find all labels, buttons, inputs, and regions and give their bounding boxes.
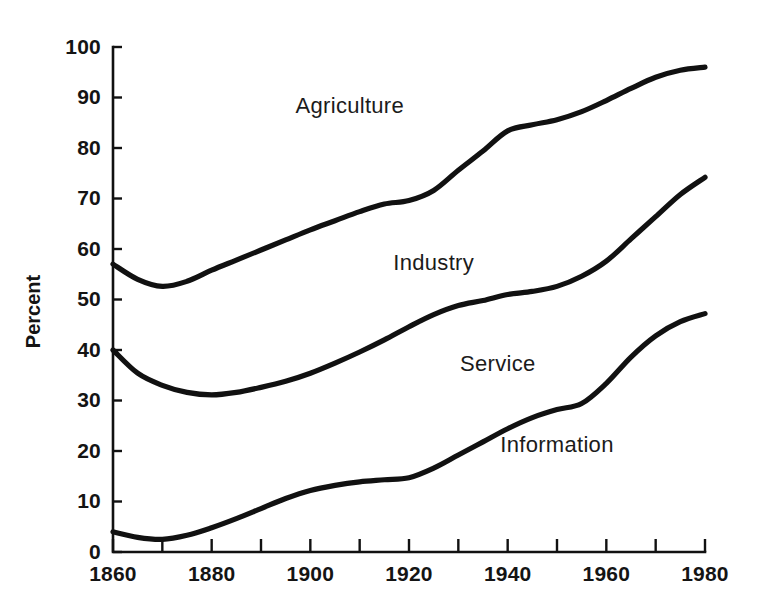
y-tick-label: 30 — [77, 388, 101, 411]
series-line-service — [113, 314, 705, 540]
y-tick-label: 40 — [77, 338, 101, 361]
series-label-agriculture: Agriculture — [296, 93, 404, 118]
series-line-industry — [113, 177, 705, 395]
series-label-service: Service — [460, 351, 535, 376]
series-annotations-group: AgricultureIndustryServiceInformation — [296, 93, 614, 456]
series-label-information: Information — [500, 432, 613, 457]
x-axis-tick-labels: 1860188019001920194019601980 — [89, 562, 729, 585]
y-tick-label: 70 — [77, 186, 101, 209]
y-tick-label: 20 — [77, 439, 101, 462]
x-tick-label: 1900 — [287, 562, 335, 585]
x-tick-label: 1920 — [385, 562, 433, 585]
x-tick-label: 1880 — [188, 562, 236, 585]
y-tick-label: 50 — [77, 287, 101, 310]
y-tick-label: 90 — [77, 85, 101, 108]
x-tick-label: 1940 — [484, 562, 532, 585]
chart-figure: 0102030405060708090100 18601880190019201… — [0, 0, 759, 614]
x-tick-label: 1980 — [681, 562, 729, 585]
y-tick-label: 100 — [65, 35, 101, 58]
y-axis-title-group: Percent — [22, 274, 44, 348]
series-lines-group — [113, 67, 705, 539]
x-tick-label: 1860 — [89, 562, 137, 585]
y-axis-title: Percent — [22, 274, 44, 348]
x-tick-label: 1960 — [583, 562, 631, 585]
y-tick-label: 80 — [77, 136, 101, 159]
y-tick-label: 0 — [89, 540, 101, 563]
series-label-industry: Industry — [393, 250, 474, 275]
y-axis-tick-labels: 0102030405060708090100 — [65, 35, 101, 563]
y-tick-label: 60 — [77, 237, 101, 260]
line-chart: 0102030405060708090100 18601880190019201… — [0, 0, 759, 614]
y-tick-label: 10 — [77, 489, 101, 512]
